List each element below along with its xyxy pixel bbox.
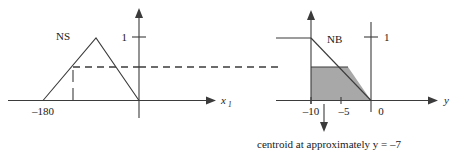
nb-clipped-shaded-area <box>311 67 371 101</box>
right-y-axis-arrowhead <box>428 97 438 105</box>
centroid-arrowhead <box>320 122 328 132</box>
left-chart-group: NS 1 –180 x 1 <box>8 8 232 118</box>
ns-triangle <box>43 38 139 101</box>
x1-axis-subscript: 1 <box>228 100 232 109</box>
left-membership-tick-label: 1 <box>122 31 128 43</box>
right-tick-label-zero: 0 <box>378 105 384 117</box>
right-membership-axis-arrowhead <box>307 10 315 20</box>
right-tick-label-minus5: –5 <box>338 105 351 117</box>
right-chart-group: NB 1 –10 –5 0 y <box>276 10 449 132</box>
centroid-caption: centroid at approximately y = –7 <box>257 138 401 150</box>
y-axis-label: y <box>443 94 449 106</box>
left-x-tick-label-minus180: –180 <box>31 105 55 117</box>
left-x-axis-arrowhead <box>206 97 216 105</box>
left-y-axis <box>135 8 143 118</box>
fuzzy-inference-figure: NS 1 –180 x 1 <box>0 0 471 154</box>
right-tick-label-minus10: –10 <box>302 105 320 117</box>
right-membership-tick-label: 1 <box>384 31 390 43</box>
nb-set-label: NB <box>327 33 342 45</box>
left-x-axis <box>8 97 216 105</box>
x1-axis-label: x <box>220 94 226 106</box>
centroid-arrow <box>320 104 328 132</box>
left-y-axis-arrowhead <box>135 8 143 18</box>
ns-set-label: NS <box>56 30 70 42</box>
